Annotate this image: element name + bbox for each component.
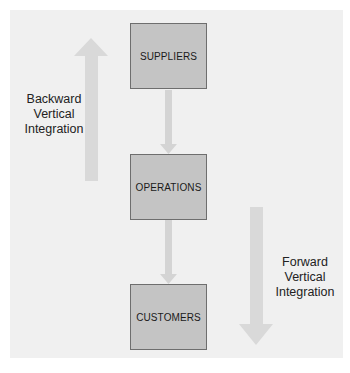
suppliers-box: SUPPLIERS <box>130 23 207 89</box>
operations-label: OPERATIONS <box>136 182 202 193</box>
forward-line1: Forward <box>268 255 342 270</box>
customers-label: CUSTOMERS <box>136 312 201 323</box>
suppliers-label: SUPPLIERS <box>140 51 197 62</box>
backward-line2: Vertical <box>18 107 90 122</box>
operations-box: OPERATIONS <box>130 154 207 220</box>
customers-box: CUSTOMERS <box>130 284 207 350</box>
connector-suppliers-operations-icon <box>160 90 177 154</box>
backward-line1: Backward <box>18 92 90 107</box>
connector-operations-customers-icon <box>160 219 177 284</box>
forward-integration-label: Forward Vertical Integration <box>268 255 342 300</box>
backward-integration-label: Backward Vertical Integration <box>18 92 90 137</box>
forward-line2: Vertical <box>268 270 342 285</box>
backward-line3: Integration <box>18 122 90 137</box>
forward-line3: Integration <box>268 285 342 300</box>
